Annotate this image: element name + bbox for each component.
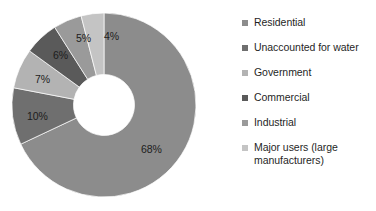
- legend-item-commercial[interactable]: Commercial: [242, 91, 376, 104]
- legend-swatch-icon: [242, 120, 248, 126]
- legend-item-industrial[interactable]: Industrial: [242, 116, 376, 129]
- legend-item-label: Government: [254, 66, 311, 79]
- legend-item-government[interactable]: Government: [242, 66, 376, 79]
- legend-item-label: Major users (large manufacturers): [254, 141, 376, 167]
- donut-chart-figure: 68% 10% 7% 6% 5% 4% Residential Unaccoun…: [0, 0, 376, 211]
- legend-swatch-icon: [242, 20, 248, 26]
- legend-item-label: Residential: [254, 16, 305, 29]
- legend-item-major-users[interactable]: Major users (large manufacturers): [242, 141, 376, 167]
- legend-item-unaccounted-for-water[interactable]: Unaccounted for water: [242, 41, 376, 54]
- legend-swatch-icon: [242, 70, 248, 76]
- legend-item-label: Unaccounted for water: [254, 41, 359, 54]
- legend-item-label: Commercial: [254, 91, 310, 104]
- chart-legend: Residential Unaccounted for water Govern…: [242, 16, 376, 206]
- slice-label-government: 7%: [35, 74, 50, 85]
- slice-label-commercial: 6%: [53, 50, 68, 61]
- legend-item-label: Industrial: [254, 116, 296, 129]
- slice-label-residential: 68%: [141, 144, 162, 155]
- legend-swatch-icon: [242, 95, 248, 101]
- slice-label-industrial: 5%: [76, 33, 91, 44]
- legend-swatch-icon: [242, 45, 248, 51]
- donut-chart-plot-area: 68% 10% 7% 6% 5% 4%: [0, 0, 210, 211]
- legend-swatch-icon: [242, 145, 248, 151]
- slice-label-unaccounted-for-water: 10%: [27, 111, 48, 122]
- legend-item-residential[interactable]: Residential: [242, 16, 376, 29]
- slice-label-major-users: 4%: [104, 31, 119, 42]
